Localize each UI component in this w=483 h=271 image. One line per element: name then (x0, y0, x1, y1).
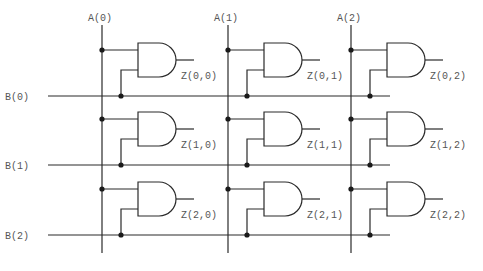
b-input-label: B(1) (5, 161, 29, 172)
junction-dot (99, 47, 104, 52)
and-gate-body (264, 182, 302, 216)
row-b-1: B(1) (5, 161, 390, 172)
b-input-label: B(2) (5, 231, 29, 242)
row-b-0: B(0) (5, 92, 390, 103)
and-array-circuit: A(0)A(1)A(2)B(0)B(1)B(2)Z(0,0)Z(0,1)Z(0,… (0, 0, 483, 271)
output-label: Z(1,0) (181, 140, 217, 151)
junction-dot (244, 162, 249, 167)
and-gate-2-1: Z(2,1) (225, 182, 343, 238)
junction-dot (367, 232, 372, 237)
junction-dot (118, 93, 123, 98)
and-gate-body (264, 43, 302, 77)
output-label: Z(0,0) (181, 71, 217, 82)
and-gate-0-2: Z(0,2) (348, 43, 466, 99)
junction-dot (367, 93, 372, 98)
output-label: Z(2,2) (430, 210, 466, 221)
and-gate-body (387, 112, 425, 146)
junction-dot (225, 116, 230, 121)
output-label: Z(0,2) (430, 71, 466, 82)
junction-dot (99, 186, 104, 191)
and-gate-1-1: Z(1,1) (225, 112, 343, 168)
output-label: Z(0,1) (307, 71, 343, 82)
and-gate-body (138, 182, 176, 216)
output-label: Z(1,1) (307, 140, 343, 151)
junction-dot (244, 232, 249, 237)
b-input-label: B(0) (5, 92, 29, 103)
junction-dot (348, 116, 353, 121)
a-input-label: A(1) (214, 13, 238, 24)
junction-dot (225, 47, 230, 52)
and-gate-1-2: Z(1,2) (348, 112, 466, 168)
output-label: Z(2,1) (307, 210, 343, 221)
output-label: Z(2,0) (181, 210, 217, 221)
junction-dot (244, 93, 249, 98)
and-gate-2-0: Z(2,0) (99, 182, 217, 238)
junction-dot (99, 116, 104, 121)
junction-dot (225, 186, 230, 191)
junction-dot (367, 162, 372, 167)
junction-dot (118, 232, 123, 237)
and-gate-body (138, 112, 176, 146)
junction-dot (348, 186, 353, 191)
and-gate-1-0: Z(1,0) (99, 112, 217, 168)
and-gate-body (387, 43, 425, 77)
and-gate-0-1: Z(0,1) (225, 43, 343, 99)
and-gate-body (387, 182, 425, 216)
junction-dot (348, 47, 353, 52)
and-gate-2-2: Z(2,2) (348, 182, 466, 238)
and-gate-body (264, 112, 302, 146)
and-gate-body (138, 43, 176, 77)
and-gate-0-0: Z(0,0) (99, 43, 217, 99)
a-input-label: A(0) (88, 13, 112, 24)
a-input-label: A(2) (337, 13, 361, 24)
junction-dot (118, 162, 123, 167)
output-label: Z(1,2) (430, 140, 466, 151)
row-b-2: B(2) (5, 231, 390, 242)
